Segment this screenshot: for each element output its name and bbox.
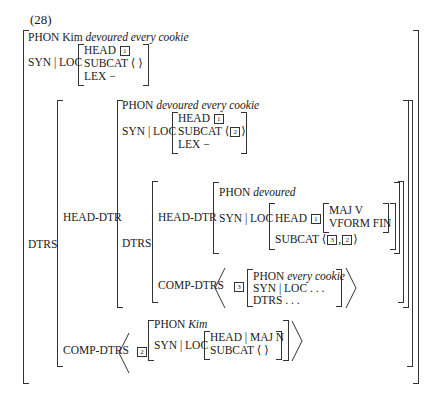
root-head: HEAD 1: [84, 44, 131, 57]
root-phon: PHON Kim devoured every cookie: [28, 31, 189, 44]
angle-open: ⟨: [322, 233, 327, 245]
head-label: HEAD: [178, 112, 210, 124]
subcat-value: ⟨ ⟩: [257, 344, 269, 356]
head-dtr-subcat: SUBCAT ⟨2⟩: [178, 125, 246, 138]
angle-open-icon: [118, 332, 130, 374]
head-dtr-head: HEAD 1: [178, 112, 225, 125]
vform-value: VFORM FIN: [329, 217, 391, 230]
phon-label: PHON: [122, 99, 153, 111]
tag-box: 1: [311, 214, 321, 224]
example-number: (28): [30, 13, 52, 26]
root-lex: LEX −: [84, 70, 116, 83]
inner-subcat: SUBCAT ⟨3,2⟩: [275, 233, 358, 246]
subcat-label: SUBCAT: [275, 233, 319, 245]
angle-close-icon: [345, 267, 357, 309]
phon-value-italic: devoured: [253, 186, 295, 198]
inner-comp-tag: 3: [233, 280, 245, 293]
lex-value: −: [203, 138, 210, 150]
comp-head-maj: HEAD | MAJ N: [210, 331, 284, 344]
tag-box: 3: [327, 235, 337, 245]
phon-value-italic: Kim: [188, 318, 207, 330]
tag-box: 2: [342, 235, 352, 245]
tag-box: 2: [137, 347, 147, 357]
root-dtrs-label: DTRS: [28, 238, 57, 251]
phon-label: PHON: [154, 318, 185, 330]
head-dtr-label: HEAD-DTR: [63, 211, 122, 224]
head-label: HEAD: [84, 44, 116, 56]
phon-value-italic: devoured every cookie: [86, 31, 189, 43]
lex-value: −: [109, 70, 116, 82]
subcat-value: ⟨ ⟩: [131, 57, 143, 69]
root-synloc-bracket-right: [143, 44, 149, 86]
lex-label: LEX: [178, 138, 200, 150]
angle-close-icon: [291, 320, 303, 362]
phon-value: Kim: [62, 31, 82, 43]
comp-dtrs-synloc-label: SYN | LOC: [154, 339, 208, 352]
angle-open-icon: [214, 267, 226, 309]
phon-value-italic: every cookie: [287, 270, 345, 282]
subcat-label: SUBCAT: [84, 57, 128, 69]
inner-head-dtr-phon: PHON devoured: [219, 186, 296, 199]
inner-comp-dtrs: DTRS . . .: [253, 294, 300, 307]
head-label: HEAD: [275, 212, 307, 224]
head-dtr-synloc-label: SYN | LOC: [122, 125, 176, 138]
comp-dtrs-tag: 2: [136, 345, 148, 358]
comp-dtrs-phon: PHON Kim: [154, 318, 207, 331]
subcat-label: SUBCAT: [210, 344, 254, 356]
inner-head: HEAD 1: [275, 212, 322, 225]
tag-box: 1: [120, 46, 130, 56]
head-dtr-lex: LEX −: [178, 138, 210, 151]
phon-value-italic: devoured every cookie: [156, 99, 259, 111]
angle-close: ⟩: [353, 233, 358, 245]
root-subcat: SUBCAT ⟨ ⟩: [84, 57, 143, 70]
subcat-label: SUBCAT: [178, 125, 222, 137]
maj-value: MAJ V: [329, 204, 363, 217]
separator: ,: [338, 233, 341, 245]
tag-box: 3: [234, 282, 244, 292]
tag-box: 1: [214, 114, 224, 124]
comp-subcat: SUBCAT ⟨ ⟩: [210, 344, 269, 357]
angle-close: ⟩: [241, 125, 246, 137]
angle-open: ⟨: [225, 125, 230, 137]
head-dtr-dtrs-label: DTRS: [122, 237, 151, 250]
outer-bracket-right: [413, 30, 419, 384]
phon-label: PHON: [253, 270, 284, 282]
inner-head-dtr-synloc-label: SYN | LOC: [219, 212, 273, 225]
root-synloc-label: SYN | LOC: [28, 56, 82, 69]
inner-head-dtr-label: HEAD-DTR: [158, 211, 217, 224]
dtrs-bracket-left: [57, 100, 63, 367]
outer-bracket-left: [23, 30, 29, 384]
tag-box: 2: [230, 127, 240, 137]
phon-label: PHON: [28, 31, 59, 43]
head-dtr-phon: PHON devoured every cookie: [122, 99, 259, 112]
lex-label: LEX: [84, 70, 106, 82]
phon-label: PHON: [219, 186, 250, 198]
